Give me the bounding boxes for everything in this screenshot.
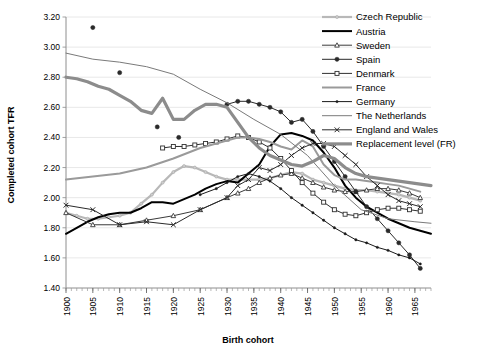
data-point bbox=[321, 185, 326, 189]
legend-item-germany[interactable]: Germany bbox=[322, 96, 395, 107]
legend-item-label: The Netherlands bbox=[356, 110, 426, 121]
data-point bbox=[364, 205, 368, 209]
y-tick-label: 1.40 bbox=[43, 283, 60, 293]
data-point bbox=[257, 180, 262, 184]
data-point bbox=[268, 146, 272, 150]
data-point bbox=[335, 71, 339, 75]
x-tick-label: 1920 bbox=[169, 297, 179, 316]
x-tick-label: 1945 bbox=[303, 297, 313, 316]
data-point bbox=[215, 187, 217, 189]
x-axis-title: Birth cohort bbox=[222, 335, 274, 345]
legend-item-czech-republic[interactable]: Czech Republic bbox=[322, 11, 423, 22]
legend-item-sweden[interactable]: Sweden bbox=[322, 40, 390, 51]
data-point bbox=[226, 181, 228, 183]
data-point bbox=[375, 217, 379, 221]
y-tick-label: 3.00 bbox=[43, 42, 60, 52]
data-point bbox=[172, 171, 175, 174]
data-point bbox=[386, 186, 391, 190]
data-point bbox=[332, 208, 336, 212]
data-point bbox=[376, 246, 378, 248]
data-point bbox=[279, 110, 283, 114]
data-point bbox=[364, 188, 369, 192]
data-point bbox=[215, 175, 218, 178]
y-axis: 1.401.601.802.002.202.402.602.803.003.20 bbox=[43, 12, 66, 293]
x-tick-label: 1940 bbox=[276, 297, 286, 316]
y-tick-label: 1.60 bbox=[43, 253, 60, 263]
data-point bbox=[312, 212, 314, 214]
data-point bbox=[204, 141, 208, 145]
legend-item-france[interactable]: France bbox=[322, 82, 386, 93]
data-point bbox=[355, 239, 357, 241]
data-point bbox=[257, 102, 261, 106]
data-point bbox=[387, 249, 389, 251]
data-point bbox=[280, 187, 282, 189]
data-point bbox=[418, 209, 422, 213]
data-point bbox=[183, 165, 186, 168]
data-point bbox=[278, 173, 283, 177]
data-point bbox=[257, 140, 261, 144]
y-tick-label: 2.80 bbox=[43, 72, 60, 82]
data-point bbox=[64, 210, 69, 214]
data-point bbox=[418, 195, 423, 199]
data-point bbox=[91, 222, 96, 226]
data-point bbox=[408, 196, 411, 199]
y-tick-label: 3.20 bbox=[43, 12, 60, 22]
data-point bbox=[336, 16, 339, 19]
data-point bbox=[386, 206, 390, 210]
data-point bbox=[237, 175, 239, 177]
legend-item-label: France bbox=[356, 82, 386, 93]
data-point bbox=[322, 219, 324, 221]
data-point bbox=[344, 233, 346, 235]
data-point bbox=[336, 100, 338, 102]
chart-container: 1.401.601.802.002.202.402.602.803.003.20… bbox=[0, 0, 486, 350]
data-point bbox=[199, 193, 201, 195]
y-tick-label: 2.00 bbox=[43, 193, 60, 203]
data-point bbox=[269, 180, 271, 182]
data-point bbox=[161, 181, 164, 184]
x-tick-label: 1960 bbox=[384, 297, 394, 316]
data-point bbox=[246, 99, 250, 103]
legend-item-austria[interactable]: Austria bbox=[322, 26, 386, 37]
data-point bbox=[365, 242, 367, 244]
data-point bbox=[235, 191, 240, 195]
x-tick-label: 1910 bbox=[115, 297, 125, 316]
data-point bbox=[407, 191, 412, 195]
data-point bbox=[301, 172, 304, 175]
legend-item-spain[interactable]: Spain bbox=[322, 54, 380, 65]
x-tick-label: 1905 bbox=[88, 297, 98, 316]
data-point bbox=[300, 181, 304, 185]
data-point bbox=[419, 263, 421, 265]
data-point bbox=[140, 202, 143, 205]
data-point bbox=[333, 227, 335, 229]
data-point bbox=[289, 120, 293, 124]
y-axis-title: Completed cohort TFR bbox=[6, 106, 16, 203]
x-tick-label: 1965 bbox=[410, 297, 420, 316]
x-tick-label: 1935 bbox=[249, 297, 259, 316]
data-point bbox=[193, 143, 197, 147]
data-point bbox=[418, 266, 422, 270]
legend-item-replacement-level-fr[interactable]: Replacement level (FR) bbox=[322, 138, 456, 149]
legend-item-label: Austria bbox=[356, 26, 386, 37]
x-tick-label: 1930 bbox=[223, 297, 233, 316]
data-point bbox=[322, 181, 325, 184]
data-point bbox=[150, 193, 153, 196]
data-point bbox=[335, 43, 340, 47]
data-point bbox=[118, 214, 121, 217]
y-tick-label: 2.20 bbox=[43, 163, 60, 173]
data-point bbox=[177, 135, 181, 139]
data-point bbox=[311, 129, 315, 133]
legend-item-england-and-wales[interactable]: England and Wales bbox=[322, 124, 438, 135]
legend-item-label: England and Wales bbox=[356, 124, 438, 135]
legend-item-label: Germany bbox=[356, 96, 395, 107]
data-point bbox=[300, 176, 305, 180]
data-point bbox=[396, 188, 401, 192]
legend-item-the-netherlands[interactable]: The Netherlands bbox=[322, 110, 426, 121]
tfr-line-chart: 1.401.601.802.002.202.402.602.803.003.20… bbox=[0, 0, 486, 350]
chart-legend: Czech RepublicAustriaSwedenSpainDenmarkF… bbox=[322, 11, 456, 149]
legend-item-label: Replacement level (FR) bbox=[356, 138, 456, 149]
x-tick-label: 1900 bbox=[62, 297, 72, 316]
data-point bbox=[322, 200, 326, 204]
legend-item-label: Sweden bbox=[356, 40, 390, 51]
data-point bbox=[289, 169, 293, 173]
data-point bbox=[300, 117, 304, 121]
